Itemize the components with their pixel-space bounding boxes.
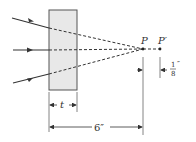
shift-numerator: 1 xyxy=(171,61,175,69)
point-p-dot xyxy=(142,48,145,51)
point-p-prime-dot xyxy=(159,48,162,51)
distance-label: 6″ xyxy=(94,122,104,133)
thickness-label: t xyxy=(60,99,65,110)
point-p-label: P xyxy=(140,35,148,46)
point-p-prime-label: P′ xyxy=(157,35,168,46)
glass-slab-diagram: P P′ t 6″ 1 8 ″ xyxy=(0,0,196,142)
glass-slab xyxy=(49,10,77,90)
ray-arrow-icons xyxy=(27,18,34,82)
shift-denominator: 8 xyxy=(171,70,175,78)
shift-unit: ″ xyxy=(177,59,180,68)
